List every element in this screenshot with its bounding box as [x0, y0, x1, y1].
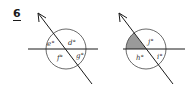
angle-label-g: g° — [76, 52, 84, 60]
diagram-left: e° d° f° g° — [28, 13, 98, 84]
diagram-right: j° h° i° — [119, 13, 185, 84]
angle-label-e: e° — [47, 40, 55, 48]
angle-label-j: j° — [146, 38, 154, 46]
angle-label-f: f° — [56, 54, 63, 62]
angle-label-d: d° — [68, 39, 76, 47]
angle-label-i: i° — [157, 53, 163, 61]
angle-label-h: h° — [136, 54, 144, 62]
angle-diagrams: e° d° f° g° j° h° i° — [0, 0, 195, 109]
